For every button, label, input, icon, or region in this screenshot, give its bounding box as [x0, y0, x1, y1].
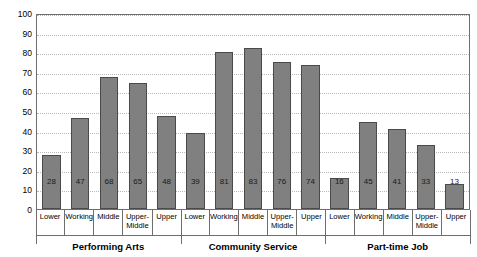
category-label: Lower	[181, 210, 210, 235]
bar-slot: 83	[239, 15, 268, 209]
bar: 41	[388, 129, 406, 209]
bar-value-label: 83	[249, 178, 258, 186]
bar: 33	[417, 145, 435, 209]
y-axis-tick-label: 10	[23, 186, 32, 195]
axis-end-tick	[470, 210, 471, 244]
bar-slot: 45	[354, 15, 383, 209]
category-label: Middle	[384, 210, 413, 235]
category-label: Upper	[153, 210, 181, 235]
bar-value-label: 39	[191, 178, 200, 186]
bar-slot: 41	[383, 15, 412, 209]
category-label: Upper-​Middle	[413, 210, 442, 235]
bar: 28	[42, 155, 60, 209]
y-axis-tick-label: 40	[23, 127, 32, 136]
bar-slot: 76	[267, 15, 296, 209]
y-axis-tick-label: 0	[27, 206, 32, 215]
category-label: Lower	[325, 210, 354, 235]
bar: 74	[301, 65, 319, 209]
bar-value-label: 65	[133, 178, 142, 186]
category-label: Upper-​Middle	[123, 210, 152, 235]
group-divider	[325, 210, 326, 244]
bar: 83	[244, 48, 262, 209]
bar-value-label: 47	[76, 178, 85, 186]
axis-end-tick	[36, 210, 37, 244]
bar-value-label: 13	[450, 178, 459, 186]
bar: 13	[445, 184, 463, 209]
bar-value-label: 28	[47, 178, 56, 186]
bar-slot: 47	[66, 15, 95, 209]
bars-container: 284768654839818376741645413313	[37, 15, 469, 209]
bar-chart: Percent Participating 010203040506070809…	[0, 0, 477, 257]
group-label: Performing Arts	[36, 236, 181, 257]
bar: 45	[359, 122, 377, 209]
bar: 76	[273, 62, 291, 209]
bar-slot: 28	[37, 15, 66, 209]
group-label: Part-time Job	[325, 236, 470, 257]
bar-value-label: 33	[421, 178, 430, 186]
category-label: Middle	[239, 210, 268, 235]
bar-slot: 16	[325, 15, 354, 209]
y-axis-tick-labels: 0102030405060708090100	[8, 14, 32, 210]
bar: 81	[215, 52, 233, 209]
bar: 68	[100, 77, 118, 209]
bar: 16	[330, 178, 348, 209]
bar-slot: 65	[123, 15, 152, 209]
bar-slot: 74	[296, 15, 325, 209]
bar-slot: 68	[95, 15, 124, 209]
group-label: Community Service	[181, 236, 326, 257]
y-axis-tick-label: 70	[23, 69, 32, 78]
bar: 39	[186, 133, 204, 209]
bar-slot: 13	[440, 15, 469, 209]
bar-value-label: 74	[306, 178, 315, 186]
y-axis-tick-label: 80	[23, 49, 32, 58]
category-label: Working	[355, 210, 384, 235]
category-label: Upper	[442, 210, 470, 235]
category-label: Working	[65, 210, 94, 235]
bar-slot: 48	[152, 15, 181, 209]
bar-value-label: 81	[220, 178, 229, 186]
bar: 65	[129, 83, 147, 209]
category-label: Lower	[36, 210, 65, 235]
y-axis-tick-label: 50	[23, 108, 32, 117]
bar-value-label: 48	[162, 178, 171, 186]
y-axis-tick-label: 100	[18, 10, 32, 19]
bar-value-label: 41	[393, 178, 402, 186]
y-axis-tick-label: 90	[23, 29, 32, 38]
bar-value-label: 76	[277, 178, 286, 186]
y-axis-tick-label: 30	[23, 147, 32, 156]
category-label-row: LowerWorkingMiddleUpper-​MiddleUpperLowe…	[36, 210, 470, 236]
category-label: Upper	[297, 210, 325, 235]
y-axis-tick-label: 60	[23, 88, 32, 97]
bar-value-label: 68	[105, 178, 114, 186]
bar: 48	[157, 116, 175, 209]
y-axis-tick-label: 20	[23, 167, 32, 176]
category-label: Middle	[94, 210, 123, 235]
bar-slot: 39	[181, 15, 210, 209]
bar-value-label: 16	[335, 178, 344, 186]
category-label: Working	[210, 210, 239, 235]
group-divider	[181, 210, 182, 244]
bar: 47	[71, 118, 89, 209]
bar-value-label: 45	[364, 178, 373, 186]
bar-slot: 33	[411, 15, 440, 209]
category-label: Upper-​Middle	[268, 210, 297, 235]
bar-slot: 81	[210, 15, 239, 209]
group-label-row: Performing ArtsCommunity ServicePart-tim…	[36, 236, 470, 257]
plot-area: 284768654839818376741645413313	[36, 14, 470, 210]
